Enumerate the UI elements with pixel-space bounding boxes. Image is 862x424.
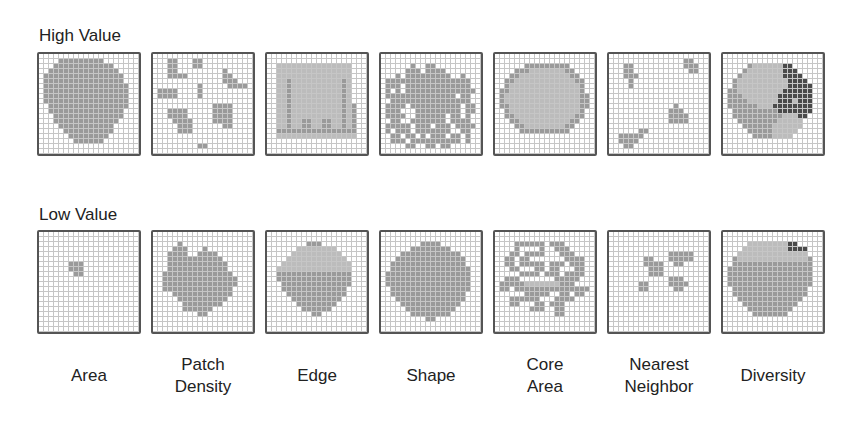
- metric-label: PatchDensity: [151, 352, 255, 400]
- metric-label-line: Core: [527, 354, 564, 376]
- metric-label-line: Diversity: [740, 365, 805, 387]
- grid-cell: [818, 327, 823, 332]
- low-row-grid-nearest-neighbor: [607, 230, 711, 334]
- grid-cell: [248, 149, 253, 154]
- grid-cell: [134, 327, 139, 332]
- high-value-row: [37, 52, 825, 156]
- grid-cell: [704, 327, 709, 332]
- metric-label-line: Edge: [297, 365, 337, 387]
- grid-cell: [476, 327, 481, 332]
- grid-cell: [590, 149, 595, 154]
- low-value-title: Low Value: [39, 205, 117, 225]
- metric-label-line: Patch: [181, 354, 224, 376]
- grid-cell: [248, 327, 253, 332]
- grid-cell: [590, 327, 595, 332]
- high-row-grid-shape: [379, 52, 483, 156]
- high-row-grid-area: [37, 52, 141, 156]
- metric-label: Area: [37, 352, 141, 400]
- low-row-grid-core-area: [493, 230, 597, 334]
- metric-label-line: Density: [175, 376, 232, 398]
- metric-label: Edge: [265, 352, 369, 400]
- metric-label-line: Nearest: [629, 354, 689, 376]
- metric-label: NearestNeighbor: [607, 352, 711, 400]
- high-row-grid-edge: [265, 52, 369, 156]
- high-row-grid-core-area: [493, 52, 597, 156]
- grid-cell: [818, 149, 823, 154]
- metric-label-line: Shape: [406, 365, 455, 387]
- low-row-grid-edge: [265, 230, 369, 334]
- low-value-row: [37, 230, 825, 334]
- high-row-grid-patch-density: [151, 52, 255, 156]
- metric-label-line: Area: [527, 376, 563, 398]
- high-row-grid-nearest-neighbor: [607, 52, 711, 156]
- low-row-grid-area: [37, 230, 141, 334]
- low-row-grid-shape: [379, 230, 483, 334]
- metric-label: Diversity: [721, 352, 825, 400]
- low-row-grid-diversity: [721, 230, 825, 334]
- grid-cell: [134, 149, 139, 154]
- low-row-grid-patch-density: [151, 230, 255, 334]
- high-row-grid-diversity: [721, 52, 825, 156]
- grid-cell: [476, 149, 481, 154]
- metric-label-line: Area: [71, 365, 107, 387]
- metric-label: Shape: [379, 352, 483, 400]
- high-value-title: High Value: [39, 26, 121, 46]
- grid-cell: [362, 149, 367, 154]
- metric-label: CoreArea: [493, 352, 597, 400]
- metric-labels: AreaPatchDensityEdgeShapeCoreAreaNearest…: [37, 352, 825, 400]
- grid-cell: [362, 327, 367, 332]
- metric-label-line: Neighbor: [625, 376, 694, 398]
- grid-cell: [704, 149, 709, 154]
